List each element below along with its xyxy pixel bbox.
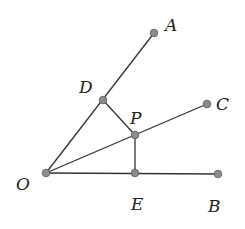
- point-c: [203, 100, 211, 108]
- point-b: [214, 170, 222, 178]
- point-d: [99, 96, 107, 104]
- label-e: E: [130, 194, 144, 214]
- labels: OADCPEB: [16, 15, 229, 216]
- point-e: [131, 169, 139, 177]
- segment-oc: [46, 104, 207, 173]
- label-a: A: [163, 15, 177, 35]
- label-c: C: [216, 94, 229, 114]
- point-p: [131, 131, 139, 139]
- label-d: D: [78, 77, 93, 97]
- segments: [46, 33, 218, 174]
- label-o: O: [16, 174, 30, 194]
- point-o: [42, 169, 50, 177]
- label-p: P: [129, 108, 142, 128]
- label-b: B: [207, 196, 221, 216]
- segment-oa: [46, 33, 154, 173]
- points: [42, 29, 222, 178]
- geometry-diagram: OADCPEB: [0, 0, 245, 229]
- point-a: [150, 29, 158, 37]
